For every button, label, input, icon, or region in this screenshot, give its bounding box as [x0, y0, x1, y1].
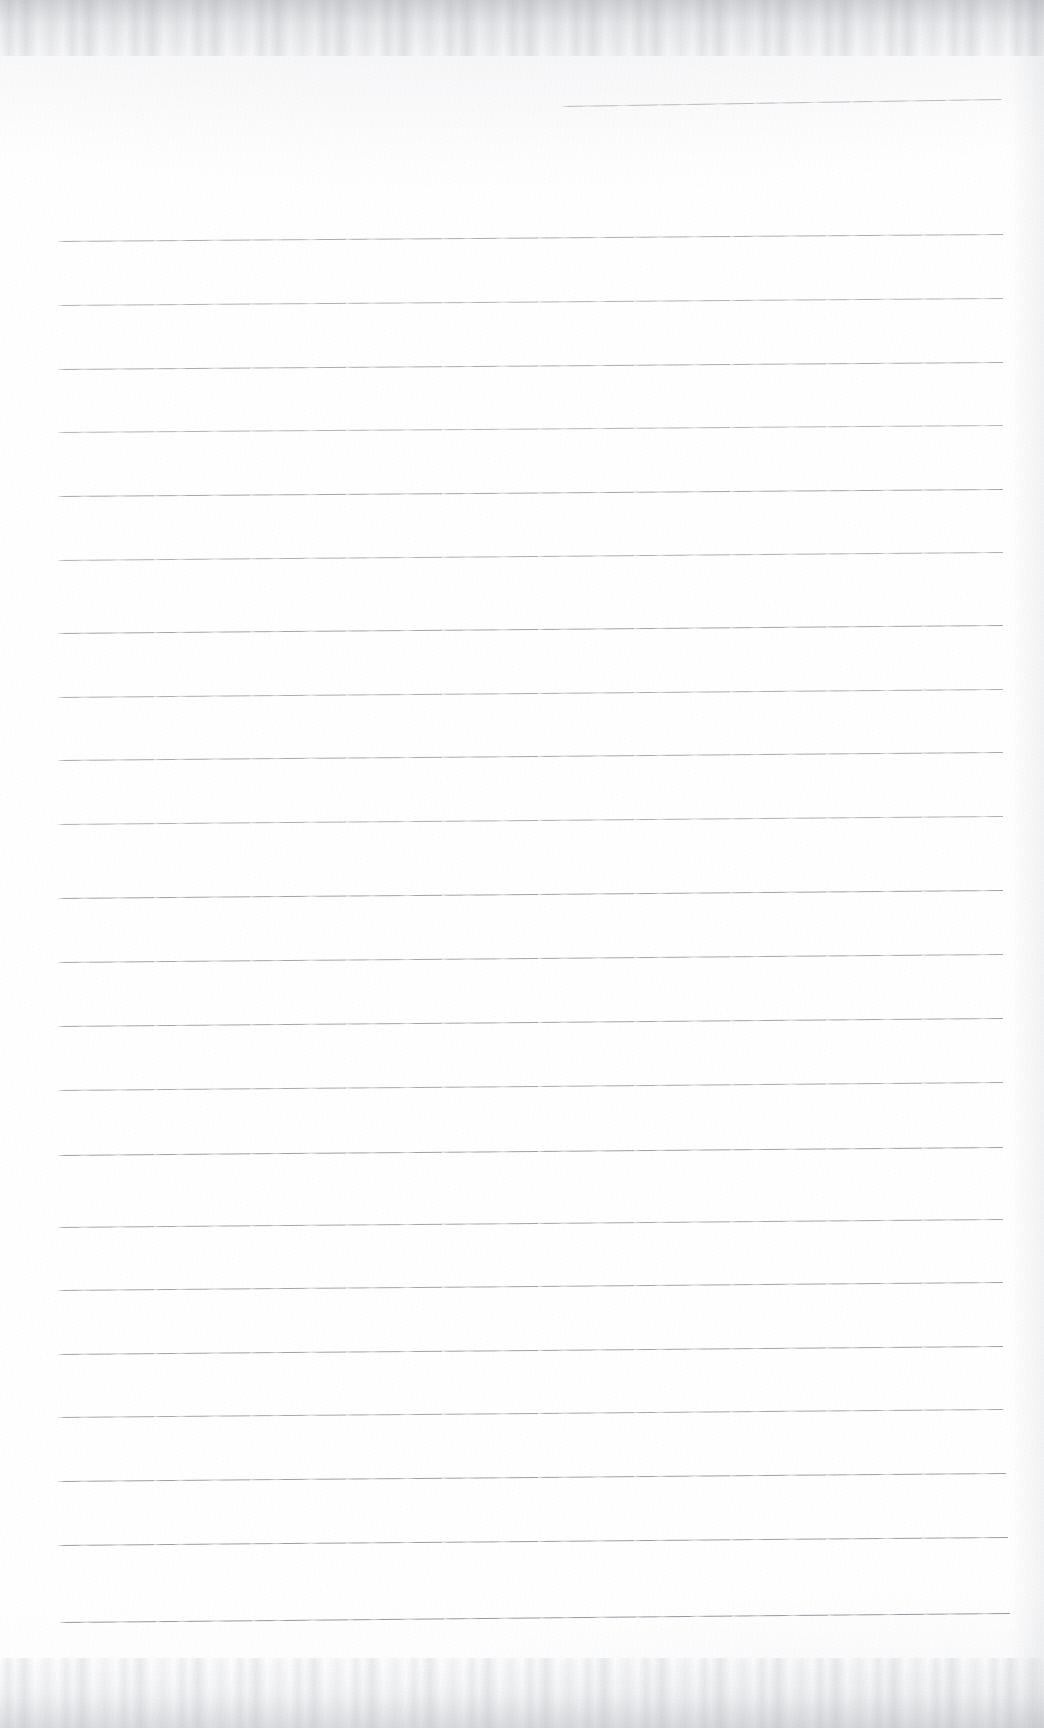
- scanned-page: [0, 0, 1044, 1728]
- paper-background: [0, 0, 1044, 1728]
